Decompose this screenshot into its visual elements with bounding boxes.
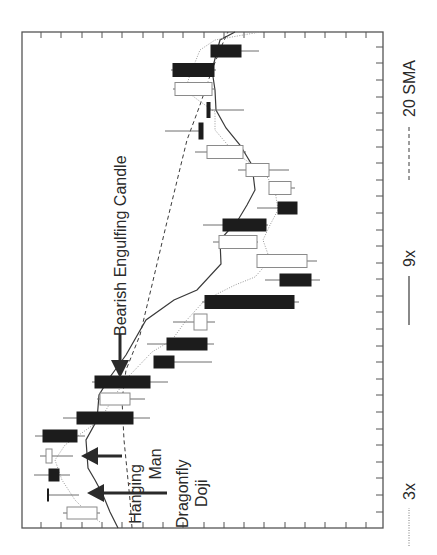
candle bbox=[97, 393, 145, 405]
candle-body bbox=[205, 296, 294, 309]
candle bbox=[195, 146, 246, 159]
candle bbox=[207, 103, 244, 118]
candle bbox=[269, 182, 295, 195]
arrow-down-icon bbox=[111, 360, 129, 378]
legend-3x-label: 3x bbox=[401, 483, 418, 500]
candle bbox=[154, 356, 212, 368]
candles bbox=[34, 45, 320, 519]
candle-body bbox=[269, 182, 291, 195]
candle-body bbox=[67, 507, 97, 519]
candle bbox=[34, 469, 70, 481]
sma20-line bbox=[122, 32, 228, 528]
arrow-left-icon bbox=[81, 447, 98, 465]
ma3-path bbox=[55, 32, 278, 522]
candle bbox=[213, 236, 258, 249]
candlestick-chart: Bearish Engulfing Candle Hanging Man Dra… bbox=[0, 0, 437, 555]
hanging-man-label-line2: Man bbox=[147, 448, 164, 479]
legend-20sma-label: 20 SMA bbox=[401, 60, 418, 117]
candle bbox=[147, 338, 214, 350]
candle bbox=[171, 64, 216, 77]
candle-body bbox=[100, 393, 130, 405]
candle bbox=[165, 123, 203, 139]
candle bbox=[63, 507, 100, 519]
ma3-line bbox=[55, 32, 278, 522]
candle-body bbox=[278, 202, 297, 214]
candle-body bbox=[219, 236, 257, 249]
candle bbox=[173, 314, 215, 330]
candle bbox=[238, 164, 289, 177]
plot-border bbox=[22, 32, 383, 528]
candle-body bbox=[154, 356, 174, 368]
chart-frame bbox=[22, 32, 383, 528]
bearish-engulfing-label: Bearish Engulfing Candle bbox=[112, 155, 129, 336]
candle bbox=[48, 489, 79, 502]
candle-body bbox=[49, 469, 59, 481]
candle-body bbox=[175, 83, 212, 96]
bearish-engulfing-annotation: Bearish Engulfing Candle bbox=[111, 155, 129, 378]
candle-body bbox=[280, 274, 311, 286]
candle-body bbox=[194, 314, 207, 330]
candle-body bbox=[43, 430, 77, 442]
candle-body bbox=[46, 449, 52, 463]
dragonfly-doji-label-line1: Dragonfly bbox=[174, 460, 191, 528]
candle-body bbox=[207, 103, 210, 118]
candle bbox=[173, 83, 215, 96]
candle-body bbox=[223, 219, 266, 231]
legend-9x-label: 9x bbox=[401, 250, 418, 267]
arrow-left-icon bbox=[87, 484, 104, 502]
candle bbox=[211, 45, 259, 57]
candle-body bbox=[173, 64, 214, 77]
candle-body bbox=[246, 164, 269, 177]
candle bbox=[63, 412, 150, 424]
candle-body bbox=[257, 255, 307, 268]
candle-body bbox=[199, 123, 203, 139]
candle-body bbox=[207, 146, 243, 159]
candle-body bbox=[77, 412, 133, 424]
candle bbox=[40, 449, 73, 463]
candle-body bbox=[211, 45, 241, 57]
dragonfly-doji-label-line2: Doji bbox=[193, 479, 210, 507]
candle bbox=[257, 255, 317, 268]
candle bbox=[202, 296, 299, 309]
sma20-path bbox=[122, 32, 228, 528]
legend: 3x 9x 20 SMA bbox=[401, 60, 418, 546]
candle-body bbox=[95, 376, 150, 388]
candle bbox=[265, 274, 320, 286]
candle bbox=[35, 430, 85, 442]
candle-body bbox=[167, 338, 207, 350]
candle bbox=[203, 219, 268, 231]
candle bbox=[92, 376, 168, 388]
